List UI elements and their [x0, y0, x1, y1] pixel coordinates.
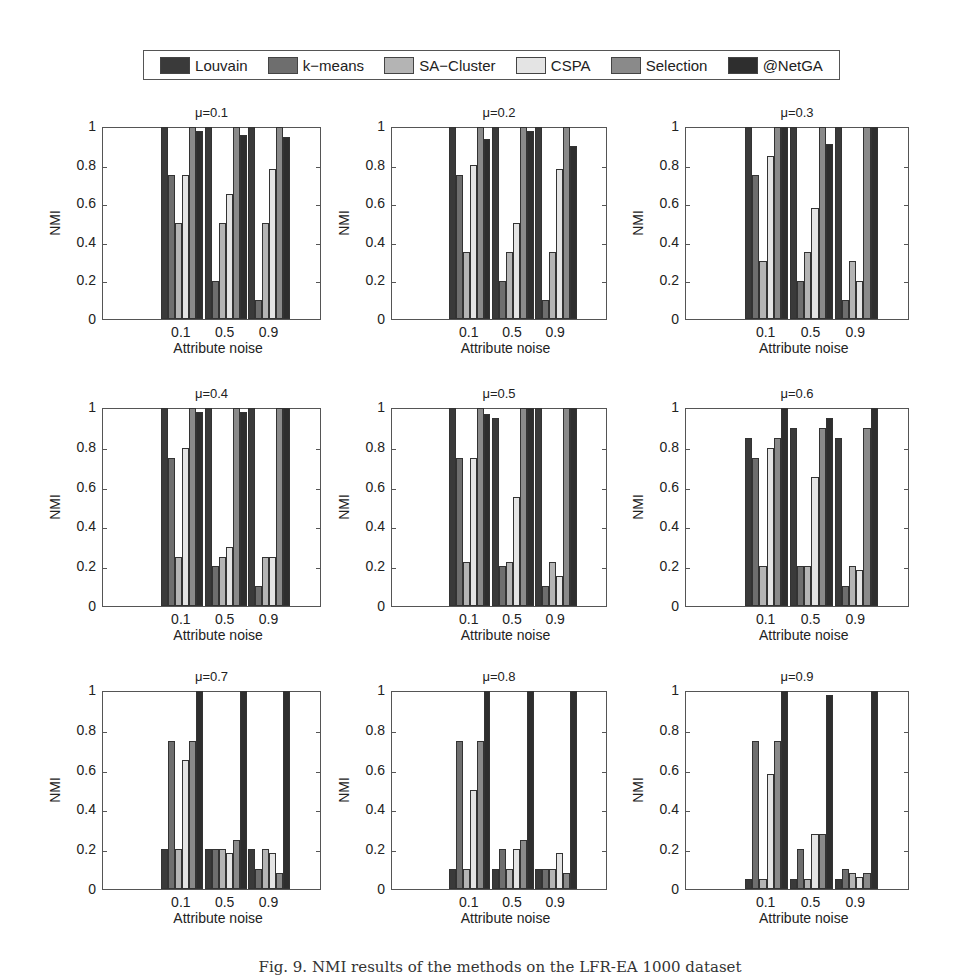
bar	[797, 566, 804, 606]
x-tick-label: 0.1	[161, 611, 201, 627]
x-tick-label: 0.5	[205, 611, 245, 627]
bar	[556, 576, 563, 606]
y-axis-label: NMI	[47, 775, 63, 805]
bar	[219, 557, 226, 607]
bar	[226, 194, 233, 319]
y-tick-mark	[392, 244, 396, 245]
bar	[811, 834, 818, 889]
y-tick-mark	[686, 811, 690, 812]
bar	[196, 691, 203, 889]
x-axis-label: Attribute noise	[685, 627, 922, 643]
legend-label: Louvain	[195, 57, 248, 74]
bar	[161, 127, 168, 319]
bar	[819, 834, 826, 889]
bar	[863, 428, 870, 606]
bar	[219, 223, 226, 319]
bar	[520, 408, 527, 606]
y-axis-label: NMI	[47, 492, 63, 522]
y-tick-label: 0.8	[345, 722, 385, 738]
legend-swatch-icon	[516, 57, 546, 74]
plot-area	[685, 127, 909, 320]
y-axis-label: NMI	[630, 775, 646, 805]
chart-panel: μ=0.500.20.40.60.81NMI0.10.50.9Attribute…	[391, 408, 607, 607]
bar	[549, 562, 556, 606]
y-tick-mark	[103, 568, 107, 569]
y-tick-mark	[103, 282, 107, 283]
bar	[212, 849, 219, 889]
y-tick-mark	[686, 851, 690, 852]
bar	[255, 300, 262, 319]
y-tick-mark	[103, 811, 107, 812]
y-tick-mark	[686, 772, 690, 773]
bar	[745, 127, 752, 319]
y-tick-label: 0	[56, 311, 96, 327]
bar	[774, 127, 781, 319]
y-tick-label: 0.8	[345, 439, 385, 455]
x-tick-label: 0.9	[535, 611, 575, 627]
y-tick-mark	[316, 568, 320, 569]
x-tick-label: 0.5	[492, 611, 532, 627]
bar	[484, 139, 491, 319]
bar	[233, 408, 240, 606]
bar	[262, 557, 269, 607]
y-tick-label: 0.2	[639, 272, 679, 288]
y-tick-label: 0.8	[639, 439, 679, 455]
panel-title: μ=0.3	[685, 105, 909, 120]
y-tick-mark	[103, 205, 107, 206]
chart-panel: μ=0.900.20.40.60.81NMI0.10.50.9Attribute…	[685, 691, 909, 890]
y-tick-mark	[316, 732, 320, 733]
bar	[752, 175, 759, 319]
chart-panel: μ=0.800.20.40.60.81NMI0.10.50.9Attribute…	[391, 691, 607, 890]
panel-title: μ=0.7	[102, 669, 321, 684]
y-tick-mark	[103, 489, 107, 490]
y-tick-mark	[904, 772, 908, 773]
chart-panel: μ=0.600.20.40.60.81NMI0.10.50.9Attribute…	[685, 408, 909, 607]
bar	[205, 127, 212, 319]
x-axis-label: Attribute noise	[685, 910, 922, 926]
x-tick-label: 0.9	[535, 324, 575, 340]
y-tick-label: 0	[345, 598, 385, 614]
bar	[262, 223, 269, 319]
y-tick-mark	[392, 205, 396, 206]
y-tick-label: 1	[56, 399, 96, 415]
chart-panel: μ=0.700.20.40.60.81NMI0.10.50.9Attribute…	[102, 691, 321, 890]
bar	[856, 877, 863, 889]
y-tick-mark	[103, 167, 107, 168]
bar	[168, 741, 175, 890]
legend-swatch-icon	[384, 57, 414, 74]
y-tick-mark	[392, 851, 396, 852]
y-tick-mark	[904, 167, 908, 168]
panel-title: μ=0.8	[391, 669, 607, 684]
bar	[549, 869, 556, 889]
bar	[871, 691, 878, 889]
x-tick-label: 0.5	[790, 611, 830, 627]
y-tick-mark	[392, 528, 396, 529]
plot-area	[685, 408, 909, 607]
bar	[527, 691, 534, 889]
plot-area	[391, 408, 607, 607]
chart-panel: μ=0.400.20.40.60.81NMI0.10.50.9Attribute…	[102, 408, 321, 607]
panel-title: μ=0.5	[391, 386, 607, 401]
y-tick-mark	[602, 167, 606, 168]
legend-label: Selection	[646, 57, 708, 74]
y-tick-mark	[392, 449, 396, 450]
x-tick-label: 0.5	[205, 324, 245, 340]
y-tick-mark	[316, 528, 320, 529]
y-tick-mark	[686, 167, 690, 168]
bar	[182, 760, 189, 889]
y-tick-mark	[904, 851, 908, 852]
bar	[248, 408, 255, 606]
bar	[484, 691, 491, 889]
legend-swatch-icon	[611, 57, 641, 74]
x-tick-label: 0.5	[492, 894, 532, 910]
y-tick-mark	[904, 449, 908, 450]
y-tick-mark	[103, 851, 107, 852]
bar	[863, 127, 870, 319]
y-tick-mark	[316, 772, 320, 773]
bar	[168, 175, 175, 319]
y-tick-mark	[103, 528, 107, 529]
bar	[499, 849, 506, 889]
bar	[804, 879, 811, 889]
y-tick-mark	[602, 732, 606, 733]
bar	[563, 127, 570, 319]
